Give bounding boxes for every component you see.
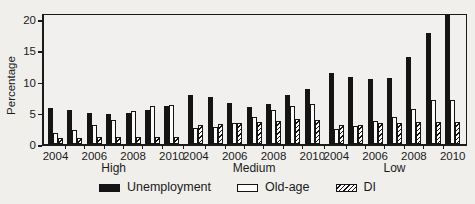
x-tick-mark	[123, 146, 124, 149]
legend-item-unemployment: Unemployment	[99, 181, 211, 194]
x-tick-mark	[183, 146, 184, 149]
old-age-swatch-icon	[237, 184, 258, 192]
bar-di-high-2006	[97, 137, 102, 144]
legend: Unemployment Old-age DI	[0, 181, 475, 194]
x-tick-mark	[205, 146, 206, 149]
bars-layer	[44, 15, 466, 144]
unemployment-swatch-icon	[99, 184, 120, 192]
x-tick-mark	[244, 146, 245, 149]
legend-item-old-age: Old-age	[237, 181, 309, 194]
x-tick-mark	[142, 146, 143, 149]
legend-label-old-age: Old-age	[265, 181, 309, 194]
bar-di-medium-2005	[218, 124, 223, 144]
x-tick-mark	[443, 146, 444, 149]
bar-di-high-2005	[77, 138, 82, 144]
bar-di-high-2008	[136, 137, 141, 145]
y-tick-label-10: 10	[12, 77, 36, 89]
x-tick-label-medium-2004: 2004	[178, 150, 214, 162]
y-tick-0	[38, 145, 42, 147]
x-tick-label-low-2004: 2004	[318, 150, 354, 162]
y-tick-15	[38, 51, 42, 53]
bar-di-medium-2010	[315, 120, 320, 144]
x-tick-mark	[324, 146, 325, 149]
bar-di-low-2007	[397, 123, 402, 144]
bar-di-high-2010	[174, 137, 179, 145]
x-tick-mark	[404, 146, 405, 149]
x-group-label-medium: Medium	[219, 162, 289, 174]
y-tick-label-15: 15	[12, 45, 36, 57]
x-group-label-low: Low	[360, 162, 430, 174]
y-tick-5	[38, 114, 42, 116]
bar-di-low-2009	[436, 122, 441, 145]
bar-di-low-2004	[339, 125, 344, 144]
y-tick-10	[38, 83, 42, 85]
bar-di-low-2005	[358, 125, 363, 144]
x-tick-mark	[423, 146, 424, 149]
bar-di-low-2006	[378, 123, 383, 144]
x-tick-label-low-2010: 2010	[435, 150, 471, 162]
legend-label-unemployment: Unemployment	[127, 181, 211, 194]
bar-di-medium-2009	[295, 119, 300, 144]
legend-label-di: DI	[364, 181, 377, 194]
y-tick-20	[38, 20, 42, 22]
x-tick-mark	[365, 146, 366, 149]
x-group-label-high: High	[79, 162, 149, 174]
x-tick-label-high-2004: 2004	[38, 150, 74, 162]
y-tick-label-5: 5	[12, 108, 36, 120]
bar-di-medium-2004	[198, 125, 203, 144]
x-tick-mark	[263, 146, 264, 149]
bar-di-medium-2006	[237, 123, 242, 144]
x-tick-mark	[384, 146, 385, 149]
legend-item-di: DI	[336, 181, 377, 194]
bar-di-high-2009	[155, 137, 160, 145]
x-tick-mark	[65, 146, 66, 149]
bar-di-high-2004	[58, 138, 63, 144]
x-tick-mark	[346, 146, 347, 149]
bar-di-medium-2007	[257, 122, 262, 145]
x-tick-mark	[225, 146, 226, 149]
y-tick-label-20: 20	[12, 14, 36, 26]
bar-chart-figure: Percentage 051015202004200620082010High2…	[0, 0, 475, 204]
bar-di-high-2007	[116, 137, 121, 145]
x-tick-mark	[84, 146, 85, 149]
plot-area	[42, 14, 467, 146]
bar-di-medium-2008	[276, 121, 281, 144]
bar-di-low-2010	[455, 122, 460, 145]
x-tick-mark	[283, 146, 284, 149]
y-tick-label-0: 0	[12, 139, 36, 151]
x-tick-mark	[162, 146, 163, 149]
bar-di-low-2008	[416, 122, 421, 145]
di-swatch-icon	[336, 184, 357, 192]
x-tick-mark	[104, 146, 105, 149]
x-tick-mark	[302, 146, 303, 149]
